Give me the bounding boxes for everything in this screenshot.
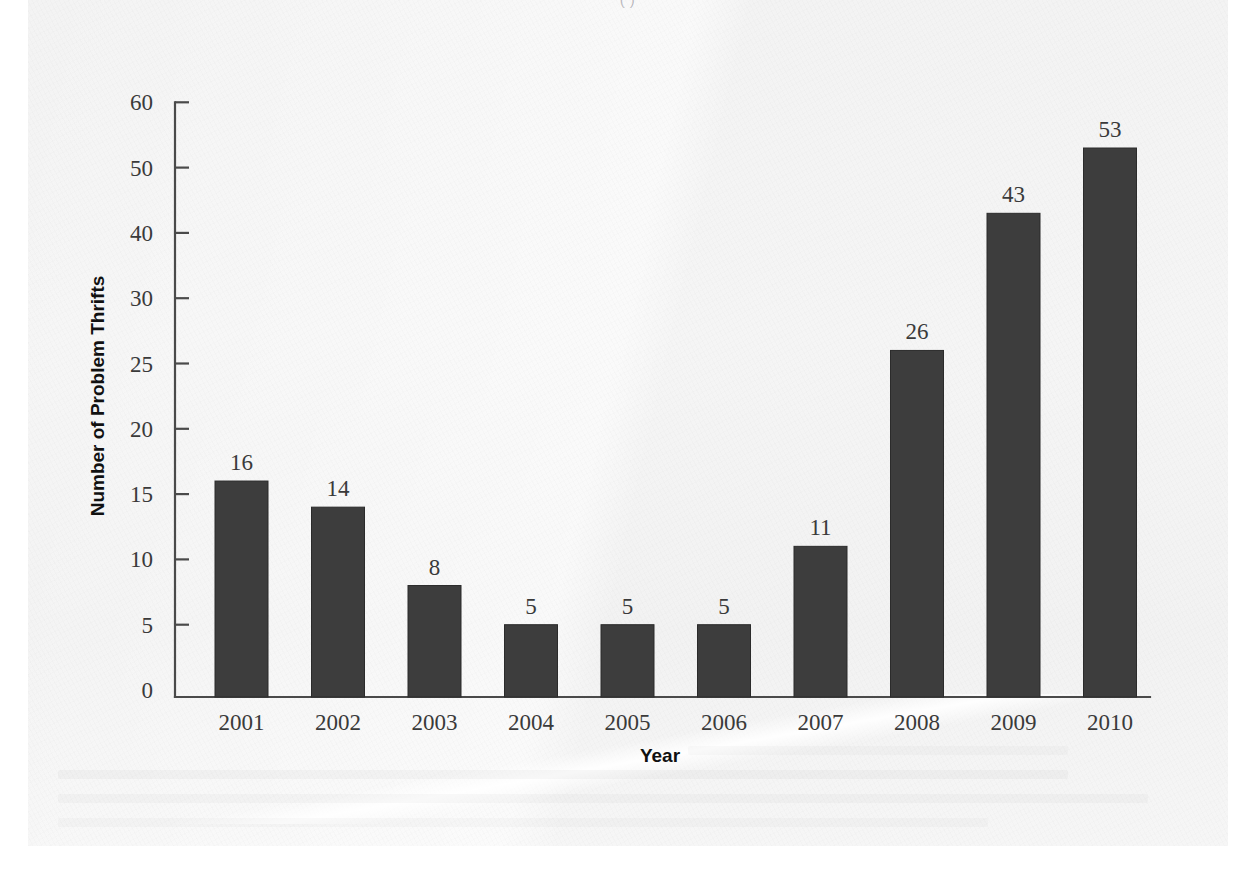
bar-value-label: 11 xyxy=(809,515,831,540)
bar-2006[interactable] xyxy=(698,625,751,697)
y-axis-tick-label: 10 xyxy=(130,547,153,572)
bar-2009[interactable] xyxy=(987,213,1040,697)
bar-value-label: 16 xyxy=(230,450,253,475)
bar-value-label: 5 xyxy=(525,594,537,619)
x-axis-tick-label: 2008 xyxy=(894,710,940,735)
x-axis-tick-label: 2009 xyxy=(991,710,1037,735)
bar-2004[interactable] xyxy=(505,625,558,697)
bar-2008[interactable] xyxy=(891,350,944,697)
bar-2002[interactable] xyxy=(312,507,365,697)
bar-2003[interactable] xyxy=(408,586,461,697)
bar-2001[interactable] xyxy=(215,481,268,697)
bar-2007[interactable] xyxy=(794,546,847,697)
bar-2005[interactable] xyxy=(601,625,654,697)
bar-value-label: 43 xyxy=(1002,182,1025,207)
y-axis-tick-label: 40 xyxy=(130,221,153,246)
bar-2010[interactable] xyxy=(1084,148,1137,697)
y-axis-tick-label: 20 xyxy=(130,417,153,442)
x-axis-tick-label: 2005 xyxy=(605,710,651,735)
x-axis-tick-label: 2010 xyxy=(1087,710,1133,735)
bar-value-label: 53 xyxy=(1099,117,1122,142)
y-axis-tick-label: 15 xyxy=(130,482,153,507)
x-axis-tick-label: 2002 xyxy=(315,710,361,735)
bar-chart: 0510152025304050601620011420028200352004… xyxy=(0,0,1255,882)
y-axis-tick-label: 0 xyxy=(142,678,154,703)
y-axis-tick-label: 25 xyxy=(130,352,153,377)
bar-value-label: 26 xyxy=(906,319,929,344)
x-axis-tick-label: 2003 xyxy=(412,710,458,735)
x-axis-title: Year xyxy=(640,745,681,766)
y-axis-title: Number of Problem Thrifts xyxy=(87,276,108,517)
chart-canvas: 0510152025304050601620011420028200352004… xyxy=(0,0,1255,882)
x-axis-tick-label: 2006 xyxy=(701,710,747,735)
bar-value-label: 5 xyxy=(718,594,730,619)
bar-value-label: 8 xyxy=(429,555,441,580)
y-axis-tick-label: 5 xyxy=(142,613,154,638)
bar-value-label: 14 xyxy=(327,476,351,501)
bar-value-label: 5 xyxy=(622,594,634,619)
y-axis-tick-label: 60 xyxy=(130,90,153,115)
y-axis-tick-label: 30 xyxy=(130,286,153,311)
screenshot-root: ( ) 051015202530405060162001142002820035… xyxy=(0,0,1255,882)
x-axis-tick-label: 2007 xyxy=(798,710,844,735)
x-axis-tick-label: 2001 xyxy=(219,710,265,735)
x-axis-tick-label: 2004 xyxy=(508,710,555,735)
y-axis-tick-label: 50 xyxy=(130,156,153,181)
